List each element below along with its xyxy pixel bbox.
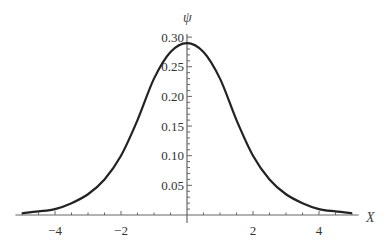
y-axis-label: ψ [183, 10, 192, 25]
y-tick-label: 0.05 [161, 178, 184, 193]
x-tick-label: −4 [48, 223, 62, 238]
y-tick-label: 0.15 [161, 119, 184, 134]
x-tick-label: 2 [250, 223, 257, 238]
y-tick-label: 0.25 [161, 59, 184, 74]
x-axis-label: X [365, 210, 375, 225]
y-tick-label: 0.30 [161, 30, 184, 45]
y-tick-label: 0.20 [161, 89, 184, 104]
axes: −4−2240.050.100.150.200.250.30 [15, 30, 358, 238]
x-tick-label: −2 [114, 223, 128, 238]
x-tick-label: 4 [316, 223, 323, 238]
chart: −4−2240.050.100.150.200.250.30 X ψ [0, 0, 389, 245]
y-tick-label: 0.10 [161, 148, 184, 163]
